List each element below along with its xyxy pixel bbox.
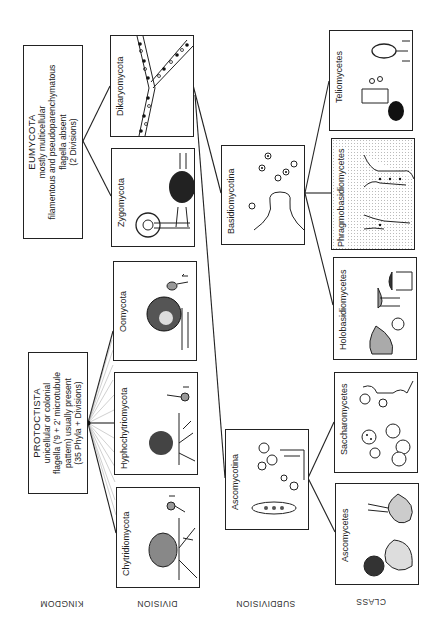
ascus-illustration (244, 430, 308, 530)
subdivision-label: Ascomycotina (230, 454, 240, 510)
kingdom-line: flagella absent (58, 65, 68, 220)
division-label: Chytridiomycota (121, 511, 131, 576)
class-label: Ascomycetes (340, 508, 350, 562)
hyphochytrid-illustration (133, 373, 197, 473)
kingdom-title: EUMYCOTA (27, 65, 37, 220)
subdivision-box-basidiomycotina: Basidiomycotina (221, 145, 305, 245)
rank-label-division: DIVISION (137, 599, 178, 609)
dikaryotic-hyphae-illustration (129, 36, 193, 136)
zygospore-illustration (130, 149, 194, 247)
class-box-holobasidiomycetes: Holobasidiomycetes (333, 257, 417, 360)
division-box-dikaryomycota: Dikaryomycota (110, 35, 194, 137)
division-label: Oomycota (118, 291, 128, 332)
kingdom-line: flagella ('9 + 2' microtubule (53, 372, 63, 474)
kingdom-text-protoctista: PROTOCTISTA unicellular or colonial flag… (32, 372, 83, 474)
kingdom-line: (2 Divisions) (68, 65, 78, 220)
kingdom-line: unicellular or colonial (43, 372, 53, 474)
class-box-phragmobasidiomycetes: Phragmobasidiomycetes (331, 138, 415, 250)
class-box-teliomycetes: Teliomycetes (329, 30, 413, 131)
phragmobasidium-illustration (350, 139, 414, 249)
kingdom-line: filamentous and pseudoparenchymatous (48, 65, 58, 220)
division-label: Dikaryomycota (115, 56, 125, 116)
division-box-hyphochytriomycota: Hyphochytriomycota (114, 372, 198, 475)
ascocarp-illustration (354, 484, 418, 584)
kingdom-box-protoctista: PROTOCTISTA unicellular or colonial flag… (28, 352, 88, 494)
division-label: Hyphochytriomycota (119, 387, 129, 469)
rank-label-kingdom: KINGDOM (40, 599, 83, 609)
class-box-ascomycetes: Ascomycetes (335, 483, 419, 585)
class-label: Holobasidiomycetes (338, 269, 348, 350)
teliospore-illustration (348, 31, 412, 129)
class-box-saccharomycetes: Saccharomycetes (334, 372, 418, 473)
mushroom-illustration (352, 258, 416, 358)
kingdom-line: pattern) usually present (63, 372, 73, 474)
division-label: Zygomycota (116, 178, 126, 227)
chytrid-illustration (135, 488, 199, 588)
division-box-oomycota: Oomycota (113, 261, 197, 361)
division-box-chytridiomycota: Chytridiomycota (116, 487, 200, 588)
yeast-illustration (353, 373, 417, 471)
rank-label-class: CLASS (356, 597, 386, 607)
kingdom-line: (35 Phyla + Divisions) (73, 372, 83, 474)
oogonium-illustration (132, 262, 196, 360)
class-label: Teliomycetes (334, 51, 344, 103)
kingdom-text-eumycota: EUMYCOTA mostly multicellular filamentou… (27, 65, 78, 220)
rank-label-subdivision: SUBDIVISION (236, 599, 295, 609)
subdivision-label: Basidiomycotina (226, 168, 236, 234)
class-label: Phragmobasidiomycetes (336, 148, 346, 247)
class-label: Saccharomycetes (339, 383, 349, 455)
kingdom-line: mostly multicellular (38, 65, 48, 220)
kingdom-title: PROTOCTISTA (32, 372, 42, 474)
kingdom-box-eumycota: EUMYCOTA mostly multicellular filamentou… (23, 45, 83, 239)
subdivision-box-ascomycotina: Ascomycotina (225, 429, 309, 530)
basidium-illustration (240, 146, 304, 244)
division-box-zygomycota: Zygomycota (111, 148, 195, 247)
